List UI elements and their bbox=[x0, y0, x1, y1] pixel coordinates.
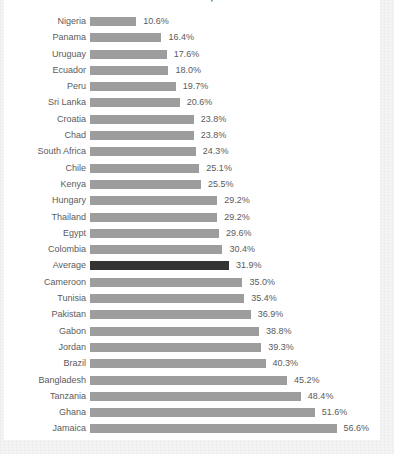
bar-row: Brazil40.3% bbox=[4, 356, 380, 372]
bar-category-label: Nigeria bbox=[4, 16, 86, 27]
bar-track: 51.6% bbox=[90, 408, 380, 417]
bar-category-label: Tunisia bbox=[4, 293, 86, 304]
bar-value-label: 39.3% bbox=[268, 342, 294, 353]
bar-track: 30.4% bbox=[90, 245, 380, 254]
bar-track: 31.9% bbox=[90, 261, 380, 270]
bar-category-label: Bangladesh bbox=[4, 375, 86, 386]
bar-track: 19.7% bbox=[90, 82, 380, 91]
bar bbox=[90, 98, 180, 107]
bar bbox=[90, 196, 217, 205]
bar-row: Ghana51.6% bbox=[4, 405, 380, 421]
bar-track: 20.6% bbox=[90, 98, 380, 107]
bar-row: Ecuador18.0% bbox=[4, 63, 380, 79]
bar-track: 36.9% bbox=[90, 310, 380, 319]
bar-track: 38.8% bbox=[90, 327, 380, 336]
bar-value-label: 51.6% bbox=[322, 407, 348, 418]
bar-category-label: Pakistan bbox=[4, 309, 86, 320]
bar-value-label: 24.3% bbox=[203, 146, 229, 157]
bar-value-label: 45.2% bbox=[294, 375, 320, 386]
bar-category-label: Average bbox=[4, 260, 86, 271]
bar bbox=[90, 376, 287, 385]
bar-row: Hungary29.2% bbox=[4, 193, 380, 209]
bar bbox=[90, 327, 259, 336]
bar-track: 29.2% bbox=[90, 196, 380, 205]
bar bbox=[90, 147, 196, 156]
bar-category-label: Panama bbox=[4, 32, 86, 43]
bar bbox=[90, 17, 136, 26]
bar-category-label: Egypt bbox=[4, 228, 86, 239]
bar-row: Egypt29.6% bbox=[4, 226, 380, 242]
bar-row: Jamaica56.6% bbox=[4, 421, 380, 437]
bar-row: Peru19.7% bbox=[4, 79, 380, 95]
bar-row: Jordan39.3% bbox=[4, 340, 380, 356]
bar-row: Colombia30.4% bbox=[4, 242, 380, 258]
bar-value-label: 23.8% bbox=[201, 130, 227, 141]
bar-track: 35.0% bbox=[90, 278, 380, 287]
bar bbox=[90, 245, 222, 254]
bar-row: Uruguay17.6% bbox=[4, 47, 380, 63]
bar-value-label: 29.2% bbox=[224, 195, 250, 206]
bar bbox=[90, 278, 242, 287]
bar-track: 24.3% bbox=[90, 147, 380, 156]
bar-value-label: 23.8% bbox=[201, 114, 227, 125]
bar-row: Chad23.8% bbox=[4, 128, 380, 144]
bar-row: Gabon38.8% bbox=[4, 324, 380, 340]
bar bbox=[90, 343, 261, 352]
bar-category-label: Jordan bbox=[4, 342, 86, 353]
bar-category-label: Uruguay bbox=[4, 49, 86, 60]
bar bbox=[90, 115, 194, 124]
bar bbox=[90, 33, 161, 42]
bar-category-label: Thailand bbox=[4, 212, 86, 223]
bar-row: Average31.9% bbox=[4, 258, 380, 274]
bar-row: Cameroon35.0% bbox=[4, 275, 380, 291]
bar bbox=[90, 66, 168, 75]
bar bbox=[90, 424, 337, 433]
bar-row: Sri Lanka20.6% bbox=[4, 95, 380, 111]
chart-title: Revenues in Selected Countries, 2013 bbox=[32, 0, 372, 2]
bar-track: 10.6% bbox=[90, 17, 380, 26]
bar-category-label: Hungary bbox=[4, 195, 86, 206]
bar-category-label: Chad bbox=[4, 130, 86, 141]
bar-value-label: 31.9% bbox=[236, 260, 262, 271]
bar bbox=[90, 408, 315, 417]
bar-track: 23.8% bbox=[90, 115, 380, 124]
bar-track: 17.6% bbox=[90, 50, 380, 59]
bar-row: Tunisia35.4% bbox=[4, 291, 380, 307]
bar bbox=[90, 213, 217, 222]
bar-track: 56.6% bbox=[90, 424, 380, 433]
bar-row: Pakistan36.9% bbox=[4, 307, 380, 323]
bar-track: 48.4% bbox=[90, 392, 380, 401]
bar-track: 35.4% bbox=[90, 294, 380, 303]
bar-value-label: 25.1% bbox=[206, 163, 232, 174]
chart-card: Revenues in Selected Countries, 2013 Nig… bbox=[4, 0, 380, 440]
bar-category-label: Brazil bbox=[4, 358, 86, 369]
bar bbox=[90, 392, 301, 401]
bar-value-label: 29.2% bbox=[224, 212, 250, 223]
bar bbox=[90, 131, 194, 140]
bar-value-label: 40.3% bbox=[273, 358, 299, 369]
bar-row: Turkey58.3% bbox=[4, 438, 380, 440]
bar-category-label: Jamaica bbox=[4, 423, 86, 434]
bar-value-label: 56.6% bbox=[344, 423, 370, 434]
bar-category-label: Chile bbox=[4, 163, 86, 174]
bar-category-label: Cameroon bbox=[4, 277, 86, 288]
bar-value-label: 17.6% bbox=[174, 49, 200, 60]
bar-category-label: Kenya bbox=[4, 179, 86, 190]
bar-value-label: 20.6% bbox=[187, 97, 213, 108]
bar-track: 40.3% bbox=[90, 359, 380, 368]
bar bbox=[90, 294, 244, 303]
bar-track: 16.4% bbox=[90, 33, 380, 42]
bar-row: Kenya25.5% bbox=[4, 177, 380, 193]
bar-category-label: Ghana bbox=[4, 407, 86, 418]
bar-track: 29.2% bbox=[90, 213, 380, 222]
bar-row: Croatia23.8% bbox=[4, 112, 380, 128]
bar bbox=[90, 310, 251, 319]
bar-track: 45.2% bbox=[90, 376, 380, 385]
bar-category-label: Peru bbox=[4, 81, 86, 92]
bar-highlighted bbox=[90, 261, 229, 270]
bar-category-label: Croatia bbox=[4, 114, 86, 125]
bar-row: Nigeria10.6% bbox=[4, 14, 380, 30]
bar-track: 29.6% bbox=[90, 229, 380, 238]
bar-value-label: 10.6% bbox=[143, 16, 169, 27]
bar-chart-plot-area: Nigeria10.6%Panama16.4%Uruguay17.6%Ecuad… bbox=[4, 14, 380, 440]
